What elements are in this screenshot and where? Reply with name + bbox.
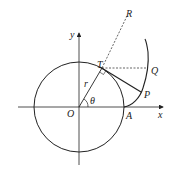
label-r-point: R bbox=[125, 8, 132, 19]
label-theta: θ bbox=[90, 95, 95, 106]
label-x-axis: x bbox=[157, 109, 163, 120]
ray-tr bbox=[102, 16, 127, 68]
angle-arc bbox=[84, 99, 88, 107]
label-a: A bbox=[125, 110, 133, 121]
label-p: P bbox=[143, 89, 150, 100]
involute-diagram: R y T Q r θ P O A x bbox=[0, 0, 171, 170]
label-o: O bbox=[67, 108, 74, 119]
label-radius: r bbox=[84, 78, 88, 89]
label-q: Q bbox=[151, 65, 159, 76]
label-y-axis: y bbox=[69, 29, 75, 40]
